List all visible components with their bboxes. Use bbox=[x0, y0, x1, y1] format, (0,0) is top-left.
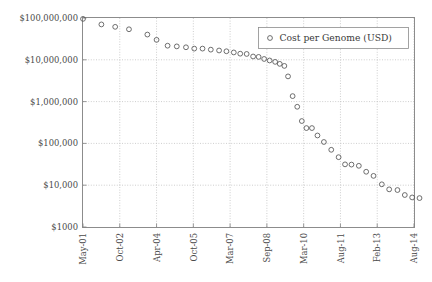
data-point bbox=[371, 173, 376, 178]
axis-frame bbox=[83, 18, 415, 228]
x-tick-label: Mar-10 bbox=[299, 233, 309, 264]
plot-frame bbox=[83, 18, 415, 228]
x-tick-label: Aug-11 bbox=[336, 233, 346, 264]
data-point bbox=[217, 48, 222, 53]
data-point bbox=[417, 196, 422, 201]
data-point bbox=[165, 43, 170, 48]
data-point bbox=[208, 47, 213, 52]
data-point bbox=[256, 55, 261, 60]
y-tick-label: $1000 bbox=[51, 222, 78, 232]
legend-series-label: Cost per Genome (USD) bbox=[280, 32, 392, 43]
data-point bbox=[387, 187, 392, 192]
chart-legend: Cost per Genome (USD) bbox=[259, 28, 409, 49]
x-tick-label: Mar-07 bbox=[225, 233, 235, 264]
x-tick-label: Oct-05 bbox=[189, 233, 199, 261]
data-point bbox=[231, 50, 236, 55]
data-point bbox=[290, 94, 295, 99]
data-point bbox=[379, 182, 384, 187]
data-point bbox=[295, 104, 300, 109]
data-point bbox=[395, 188, 400, 193]
data-point bbox=[244, 52, 249, 57]
data-point bbox=[267, 58, 272, 63]
data-point bbox=[343, 162, 348, 167]
data-point bbox=[224, 49, 229, 54]
y-tick-label: $10,000,000 bbox=[25, 55, 78, 65]
data-point bbox=[277, 61, 282, 66]
x-tick-label: Sep-08 bbox=[262, 233, 272, 263]
x-tick-label: May-01 bbox=[78, 233, 88, 265]
data-point bbox=[262, 57, 267, 62]
y-tick-label: $10,000 bbox=[43, 180, 78, 190]
data-point bbox=[99, 22, 104, 27]
data-point bbox=[329, 147, 334, 152]
chart-figure: $100,000,000$10,000,000$1,000,000$100,00… bbox=[0, 0, 432, 282]
data-point bbox=[273, 59, 278, 64]
data-point bbox=[184, 45, 189, 50]
x-tick-label: Aug-14 bbox=[409, 233, 419, 264]
data-point bbox=[238, 51, 243, 56]
data-point bbox=[402, 193, 407, 198]
data-point bbox=[200, 46, 205, 51]
data-point bbox=[282, 64, 287, 69]
cost-per-genome-scatter-chart: $100,000,000$10,000,000$1,000,000$100,00… bbox=[0, 0, 432, 282]
data-point bbox=[113, 24, 118, 29]
data-point bbox=[336, 155, 341, 160]
data-point bbox=[321, 140, 326, 145]
data-point bbox=[299, 119, 304, 124]
data-point bbox=[174, 44, 179, 49]
data-point bbox=[192, 46, 197, 51]
x-tick-label: Feb-13 bbox=[372, 233, 382, 262]
data-point bbox=[315, 133, 320, 138]
data-point bbox=[127, 27, 132, 32]
data-point bbox=[304, 126, 309, 131]
y-axis-tick-labels: $100,000,000$10,000,000$1,000,000$100,00… bbox=[19, 13, 78, 232]
data-point bbox=[356, 163, 361, 168]
data-point bbox=[310, 126, 315, 131]
x-tick-label: Oct-02 bbox=[115, 233, 125, 261]
y-tick-label: $100,000,000 bbox=[19, 13, 78, 23]
y-tick-label: $100,000 bbox=[38, 138, 78, 148]
y-tick-label: $1,000,000 bbox=[30, 97, 78, 107]
data-point bbox=[286, 74, 291, 79]
x-axis-tick-labels: May-01Oct-02Apr-04Oct-05Mar-07Sep-08Mar-… bbox=[78, 233, 419, 265]
data-point bbox=[251, 54, 256, 59]
grid-lines bbox=[83, 18, 414, 227]
data-point bbox=[145, 32, 150, 37]
tick-marks bbox=[83, 18, 414, 227]
data-point bbox=[364, 169, 369, 174]
data-point bbox=[349, 162, 354, 167]
x-tick-label: Apr-04 bbox=[152, 233, 162, 263]
